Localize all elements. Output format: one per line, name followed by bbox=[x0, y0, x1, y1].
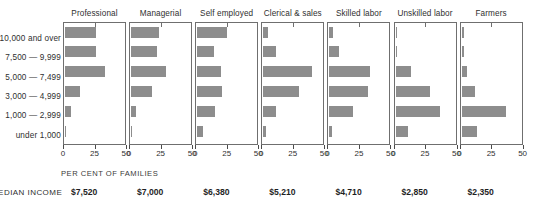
x-axis-tick-label: 0 bbox=[61, 149, 65, 158]
x-axis-tick-label: 0 bbox=[325, 149, 329, 158]
x-axis-tick-label: 25 bbox=[354, 149, 363, 158]
bar-row bbox=[65, 123, 124, 143]
panel-title: Self employed bbox=[195, 9, 258, 18]
bar bbox=[462, 66, 468, 77]
panel-title: Professional bbox=[63, 9, 126, 18]
bar bbox=[329, 126, 331, 137]
bar bbox=[65, 46, 96, 57]
bar bbox=[131, 106, 136, 117]
bar-row bbox=[263, 64, 322, 84]
bar bbox=[462, 126, 477, 137]
x-axis: 02550 bbox=[129, 145, 192, 161]
plot-area bbox=[394, 22, 457, 145]
bar-row bbox=[462, 103, 521, 123]
bar bbox=[65, 27, 96, 38]
bar bbox=[263, 46, 276, 57]
x-axis-tick-label: 0 bbox=[391, 149, 395, 158]
bar bbox=[197, 86, 222, 97]
x-axis-tick-label: 25 bbox=[421, 149, 430, 158]
bar-row bbox=[396, 123, 455, 143]
bar-row bbox=[462, 123, 521, 143]
bar-group bbox=[263, 24, 322, 143]
bar bbox=[396, 106, 441, 117]
bar-row bbox=[131, 103, 190, 123]
bar bbox=[396, 66, 411, 77]
bar bbox=[396, 27, 397, 38]
median-income-value: $2,350 bbox=[468, 187, 494, 197]
plot-area bbox=[327, 22, 390, 145]
bar-row bbox=[396, 24, 455, 44]
bar-row bbox=[131, 24, 190, 44]
bar bbox=[462, 46, 464, 57]
plot-area bbox=[129, 22, 192, 145]
x-axis-tick-label: 25 bbox=[288, 149, 297, 158]
median-income-label: MEDIAN INCOME bbox=[0, 188, 62, 197]
median-income-value: $6,380 bbox=[203, 187, 229, 197]
x-axis: 02550 bbox=[394, 145, 457, 161]
y-axis-label: 10,000 and over bbox=[0, 29, 61, 48]
bar bbox=[263, 106, 276, 117]
bar-row bbox=[462, 83, 521, 103]
x-axis: 02550 bbox=[261, 145, 324, 161]
bar-row bbox=[329, 24, 388, 44]
bar bbox=[131, 86, 152, 97]
median-income-value: $4,710 bbox=[335, 187, 361, 197]
bar bbox=[197, 126, 203, 137]
bar bbox=[462, 86, 475, 97]
bar bbox=[65, 126, 66, 137]
panel-title: Skilled labor bbox=[327, 9, 390, 18]
bar-row bbox=[329, 83, 388, 103]
bar-row bbox=[197, 44, 256, 64]
bar-row bbox=[65, 83, 124, 103]
bar-row bbox=[462, 24, 521, 44]
bar bbox=[263, 86, 298, 97]
bar-row bbox=[396, 83, 455, 103]
bar-row bbox=[131, 44, 190, 64]
median-income-value: $2,850 bbox=[402, 187, 428, 197]
bar-row bbox=[396, 44, 455, 64]
plot-area bbox=[261, 22, 324, 145]
bar bbox=[329, 27, 333, 38]
x-axis: 02550 bbox=[195, 145, 258, 161]
y-axis-label: 1,000 — 2,999 bbox=[5, 106, 61, 125]
bar bbox=[65, 106, 71, 117]
bar-row bbox=[462, 44, 521, 64]
x-axis-tick-label: 50 bbox=[518, 149, 527, 158]
bar-row bbox=[65, 44, 124, 64]
bar-group bbox=[65, 24, 124, 143]
bar bbox=[197, 27, 227, 38]
x-axis-tick-label: 0 bbox=[457, 149, 461, 158]
bar-row bbox=[65, 64, 124, 84]
bar-group bbox=[396, 24, 455, 143]
bar-row bbox=[197, 24, 256, 44]
bar-group bbox=[329, 24, 388, 143]
bar-row bbox=[329, 103, 388, 123]
bar-row bbox=[263, 44, 322, 64]
bar bbox=[131, 46, 157, 57]
x-axis-tick-label: 25 bbox=[90, 149, 99, 158]
bar bbox=[197, 106, 215, 117]
median-income-value: $5,210 bbox=[269, 187, 295, 197]
bar bbox=[329, 66, 369, 77]
bar bbox=[197, 46, 214, 57]
bar-row bbox=[263, 103, 322, 123]
bar bbox=[65, 66, 105, 77]
bar-row bbox=[396, 103, 455, 123]
x-axis-tick-label: 25 bbox=[222, 149, 231, 158]
bar-group bbox=[197, 24, 256, 143]
plot-area bbox=[460, 22, 523, 145]
bar-row bbox=[197, 103, 256, 123]
bar-row bbox=[197, 123, 256, 143]
bar-group bbox=[462, 24, 521, 143]
x-axis: 02550 bbox=[63, 145, 126, 161]
bar-group bbox=[131, 24, 190, 143]
x-axis: 02550 bbox=[460, 145, 523, 161]
bar-row bbox=[263, 123, 322, 143]
bar-row bbox=[65, 24, 124, 44]
median-income-value: $7,520 bbox=[71, 187, 97, 197]
bar-row bbox=[263, 24, 322, 44]
bar bbox=[462, 106, 507, 117]
bar bbox=[396, 46, 397, 57]
x-axis-tick-label: 25 bbox=[156, 149, 165, 158]
bar bbox=[396, 126, 409, 137]
